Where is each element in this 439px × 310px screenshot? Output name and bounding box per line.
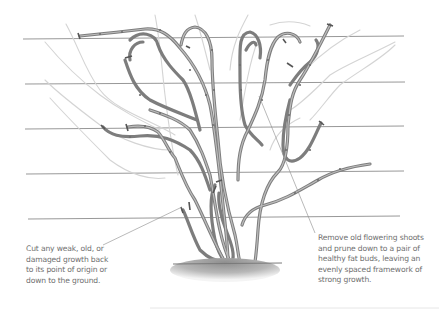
shrub-stems bbox=[80, 25, 370, 262]
pruning-illustration: Cut any weak, old, or damaged growth bac… bbox=[0, 0, 439, 310]
annotation-remove-flowering-shoots: Remove old flowering shoots and prune do… bbox=[318, 233, 438, 286]
leader-line-left bbox=[103, 207, 182, 245]
soil-mound bbox=[170, 258, 280, 282]
annotation-cut-weak-growth: Cut any weak, old, or damaged growth bac… bbox=[26, 244, 136, 286]
